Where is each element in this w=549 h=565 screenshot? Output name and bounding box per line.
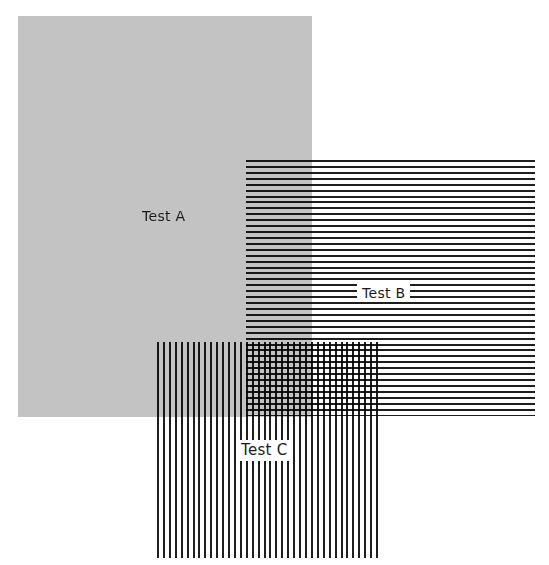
- test-a-label: Test A: [142, 209, 185, 223]
- test-b-label: Test B: [357, 284, 410, 302]
- test-c-label: Test C: [238, 440, 291, 461]
